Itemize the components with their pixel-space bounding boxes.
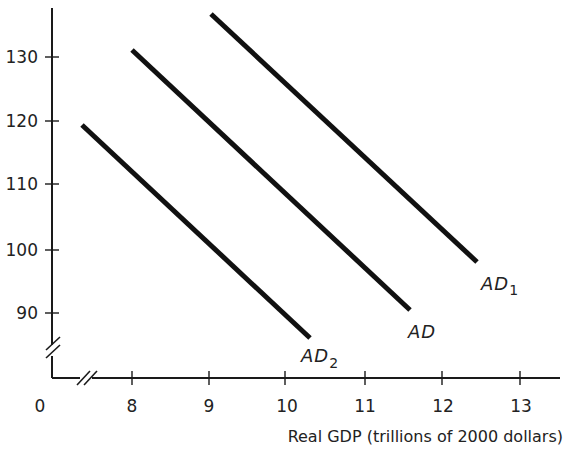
curve-ad2 <box>82 125 310 338</box>
curve-ad <box>132 50 410 310</box>
x-tick-12: 12 <box>432 396 454 416</box>
label-ad: AD <box>407 321 436 342</box>
label-ad1: AD1 <box>480 273 519 298</box>
x-tick-9: 9 <box>204 396 215 416</box>
x-axis-title: Real GDP (trillions of 2000 dollars) <box>288 427 563 446</box>
x-tick-0: 0 <box>35 396 46 416</box>
curve-ad1 <box>211 14 477 262</box>
y-tick-120: 120 <box>6 111 38 131</box>
y-tick-90: 90 <box>16 303 38 323</box>
chart: 130 120 110 100 90 0 8 9 10 11 12 13 Rea… <box>0 0 566 455</box>
x-tick-13: 13 <box>510 396 532 416</box>
label-ad2: AD2 <box>300 345 339 371</box>
x-tick-11: 11 <box>354 396 376 416</box>
x-tick-8: 8 <box>127 396 138 416</box>
y-tick-130: 130 <box>6 47 38 67</box>
x-tick-10: 10 <box>276 396 298 416</box>
y-tick-100: 100 <box>6 240 38 260</box>
y-tick-110: 110 <box>6 174 38 194</box>
